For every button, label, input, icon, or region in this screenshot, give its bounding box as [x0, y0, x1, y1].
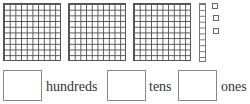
one-unit-2 [213, 15, 219, 21]
tens-label: tens [149, 79, 172, 95]
hundred-flat-1 [3, 3, 61, 61]
ten-rod-1 [199, 3, 206, 62]
one-unit-1 [212, 3, 218, 9]
ones-answer-box[interactable] [178, 70, 217, 101]
tens-answer-box[interactable] [107, 70, 146, 101]
hundred-flat-2 [68, 3, 126, 61]
hundreds-answer-box[interactable] [3, 70, 42, 101]
hundreds-label: hundreds [46, 79, 97, 95]
hundred-flat-3 [133, 3, 191, 61]
ones-label: ones [221, 79, 247, 95]
one-unit-3 [213, 28, 219, 34]
